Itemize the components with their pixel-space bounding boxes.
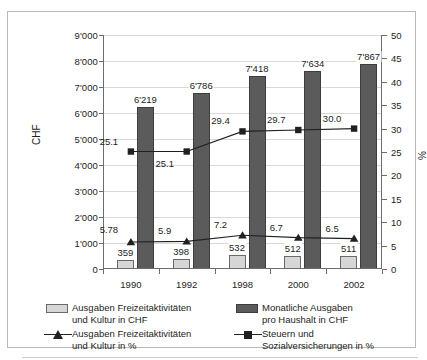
left-axis-ticklabel: 8'000	[75, 56, 98, 67]
right-axis-tick	[382, 246, 387, 247]
line-point-value-label: 25.1	[100, 136, 119, 147]
legend-label-monatliche-chf: Monatliche Ausgaben pro Haushalt in CHF	[262, 302, 353, 325]
right-axis-ticklabel: 0	[391, 264, 396, 275]
x-axis-tick	[326, 269, 327, 274]
legend-swatch-dark-bar-icon	[234, 303, 262, 314]
x-axis-tick	[382, 269, 383, 274]
chart-frame: CHF % 01'0002'0003'0004'0005'0006'0007'0…	[7, 11, 416, 348]
square-marker-icon	[239, 128, 245, 134]
x-axis-category-label: 1990	[120, 279, 141, 290]
x-axis-tick	[103, 269, 104, 274]
right-axis-tick	[382, 58, 387, 59]
plot-area: 01'0002'0003'0004'0005'0006'0007'0008'00…	[103, 35, 382, 269]
right-axis-tick	[382, 129, 387, 130]
right-axis-ticklabel: 40	[391, 76, 402, 87]
legend-separator	[22, 357, 418, 358]
left-axis-title: CHF	[31, 124, 42, 145]
x-axis-category-label: 1998	[232, 279, 253, 290]
line-point-value-label: 6.7	[270, 222, 283, 233]
left-axis-ticklabel: 6'000	[75, 108, 98, 119]
left-axis-ticklabel: 2'000	[75, 212, 98, 223]
left-axis-ticklabel: 5'000	[75, 134, 98, 145]
right-axis-ticklabel: 10	[391, 217, 402, 228]
right-axis-ticklabel: 15	[391, 193, 402, 204]
legend-row-1: Ausgaben Freizeitaktivitäten und Kultur …	[44, 302, 394, 328]
legend-line-square-icon	[234, 329, 262, 340]
line-point-value-label: 30.0	[323, 113, 342, 124]
legend-label-steuern-pct: Steuern und Sozialversicherungen in %	[262, 328, 374, 351]
left-axis-ticklabel: 4'000	[75, 160, 98, 171]
right-axis-ticklabel: 45	[391, 53, 402, 64]
legend-label-ausgaben-pct: Ausgaben Freizeitaktivitäten und Kultur …	[72, 328, 191, 351]
square-marker-icon	[128, 148, 134, 154]
right-axis-tick	[382, 222, 387, 223]
line-point-value-label: 29.7	[267, 114, 286, 125]
x-axis-tick	[270, 269, 271, 274]
legend-item-monatliche-chf: Monatliche Ausgaben pro Haushalt in CHF	[234, 302, 353, 325]
legend-line-triangle-icon	[44, 329, 72, 340]
x-axis-tick	[159, 269, 160, 274]
left-axis-ticklabel: 0	[93, 264, 98, 275]
line-point-value-label: 5.78	[100, 224, 119, 235]
square-marker-icon	[184, 148, 190, 154]
legend-item-ausgaben-pct: Ausgaben Freizeitaktivitäten und Kultur …	[44, 328, 191, 351]
legend-item-steuern-pct: Steuern und Sozialversicherungen in %	[234, 328, 374, 351]
x-axis-category-label: 1992	[176, 279, 197, 290]
square-marker-icon	[351, 125, 357, 131]
right-axis-tick	[382, 199, 387, 200]
right-axis-ticklabel: 20	[391, 170, 402, 181]
right-axis-tick	[382, 35, 387, 36]
x-axis-line	[103, 268, 382, 269]
right-axis-tick	[382, 175, 387, 176]
legend-swatch-light-bar-icon	[44, 303, 72, 314]
right-axis-ticklabel: 25	[391, 147, 402, 158]
right-axis-ticklabel: 5	[391, 240, 396, 251]
x-axis-tick	[215, 269, 216, 274]
right-axis-ticklabel: 35	[391, 100, 402, 111]
right-axis-tick	[382, 82, 387, 83]
right-axis-title: %	[417, 151, 427, 160]
chart-legend: Ausgaben Freizeitaktivitäten und Kultur …	[44, 302, 394, 354]
legend-label-ausgaben-chf: Ausgaben Freizeitaktivitäten und Kultur …	[72, 302, 191, 325]
x-axis-category-label: 2000	[288, 279, 309, 290]
legend-row-2: Ausgaben Freizeitaktivitäten und Kultur …	[44, 328, 394, 354]
left-axis-ticklabel: 1'000	[75, 238, 98, 249]
right-axis-tick	[382, 152, 387, 153]
left-axis-ticklabel: 3'000	[75, 186, 98, 197]
line-point-value-label: 25.1	[155, 158, 174, 169]
left-axis-ticklabel: 9'000	[75, 30, 98, 41]
line-point-value-label: 7.2	[214, 219, 227, 230]
square-marker-icon	[295, 127, 301, 133]
x-axis-category-label: 2002	[344, 279, 365, 290]
left-axis-ticklabel: 7'000	[75, 82, 98, 93]
right-axis-tick	[382, 105, 387, 106]
line-series-layer	[103, 35, 382, 269]
line-point-value-label: 5.9	[158, 225, 171, 236]
legend-item-ausgaben-chf: Ausgaben Freizeitaktivitäten und Kultur …	[44, 302, 191, 325]
right-axis-ticklabel: 30	[391, 123, 402, 134]
right-axis-ticklabel: 50	[391, 30, 402, 41]
line-point-value-label: 29.4	[211, 115, 230, 126]
line-point-value-label: 6.5	[325, 223, 338, 234]
